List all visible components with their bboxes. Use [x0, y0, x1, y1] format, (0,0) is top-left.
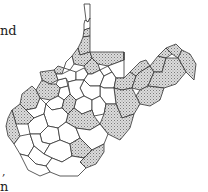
county-tyler [64, 56, 74, 70]
county-layer [6, 4, 196, 176]
west-virginia-county-map [0, 0, 208, 192]
